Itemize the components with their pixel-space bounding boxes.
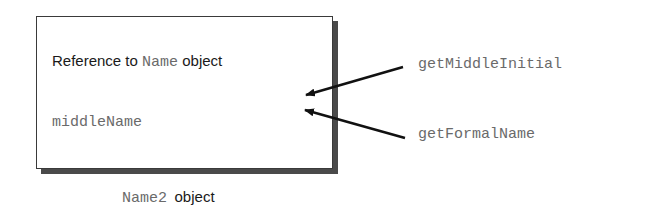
arrows-layer (0, 0, 649, 214)
arrow-get-formal-name (305, 110, 405, 138)
arrow-get-middle-initial (306, 67, 403, 95)
